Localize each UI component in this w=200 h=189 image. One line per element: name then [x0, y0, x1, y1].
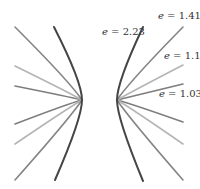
right-branch-e-1.1	[117, 65, 183, 144]
label-e-1.1: e = 1.1	[164, 50, 200, 61]
hyperbola-figure: e = 2.23 e = 1.41 e = 1.1 e = 1.03	[0, 0, 200, 189]
left-branches	[15, 27, 82, 180]
hyperbola-diagram: e = 2.23 e = 1.41 e = 1.1 e = 1.03	[0, 0, 200, 189]
label-e-1.03: e = 1.03	[159, 88, 200, 99]
left-branch-e-1.03	[15, 86, 82, 124]
label-e-2.23: e = 2.23	[102, 26, 145, 37]
left-branch-e-1.1	[15, 66, 82, 144]
label-e-1.41: e = 1.41	[158, 10, 200, 21]
left-branch-e-2.23	[54, 27, 82, 180]
